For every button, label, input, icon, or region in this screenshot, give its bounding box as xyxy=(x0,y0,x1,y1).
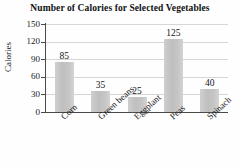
y-axis-tick xyxy=(41,77,46,78)
gridline xyxy=(46,24,228,25)
y-axis-tick xyxy=(41,42,46,43)
y-axis-tick xyxy=(41,112,46,113)
gridline xyxy=(46,42,228,43)
y-axis-tick-label: 90 xyxy=(6,55,40,64)
bar xyxy=(164,39,183,112)
y-axis-tick-labels: 0306090120150 xyxy=(2,0,40,167)
y-axis-tick-label: 120 xyxy=(6,37,40,46)
y-axis-tick xyxy=(41,94,46,95)
y-axis-tick-label: 150 xyxy=(6,20,40,29)
plot-area xyxy=(46,24,228,112)
bar-value-label: 125 xyxy=(153,28,193,38)
y-axis-tick xyxy=(41,24,46,25)
y-axis-tick-label: 0 xyxy=(6,108,40,117)
bar-value-label: 25 xyxy=(117,86,157,96)
bar-value-label: 40 xyxy=(190,78,230,88)
y-axis-tick-label: 60 xyxy=(6,72,40,81)
bar-value-label: 35 xyxy=(81,80,121,90)
bar-value-label: 85 xyxy=(44,51,84,61)
chart-screenshot: Number of Calories for Selected Vegetabl… xyxy=(0,0,240,167)
y-axis-tick-label: 30 xyxy=(6,90,40,99)
